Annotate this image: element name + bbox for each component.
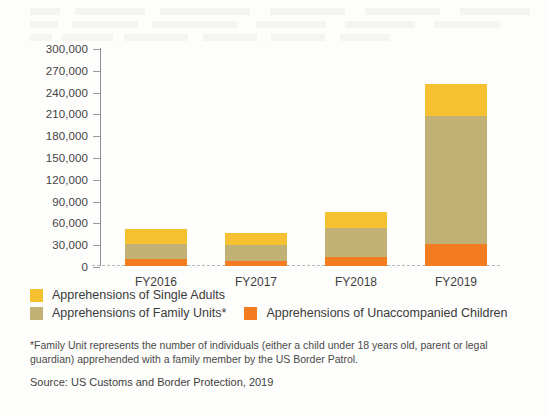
bar-segment-family bbox=[425, 116, 487, 244]
bleed-line bbox=[30, 8, 530, 15]
legend-label-single-adults: Apprehensions of Single Adults bbox=[52, 288, 225, 302]
y-axis-tick-mark bbox=[93, 202, 100, 203]
legend-swatch-unaccompanied-children-icon bbox=[244, 307, 257, 320]
y-axis-tick-label: 180,000 bbox=[46, 130, 100, 142]
y-axis-tick-label: 300,000 bbox=[46, 43, 100, 55]
bar-segment-children bbox=[325, 257, 387, 266]
plot-area: 300,000270,000240,000210,000180,000150,0… bbox=[100, 48, 500, 266]
bar-segment-adults bbox=[325, 212, 387, 228]
y-axis-tick-mark bbox=[93, 180, 100, 181]
bar-segment-adults bbox=[425, 84, 487, 117]
legend-item-unaccompanied-children: Apprehensions of Unaccompanied Children bbox=[244, 306, 507, 320]
y-axis-tick: 270,000 bbox=[100, 70, 500, 71]
bleed-line bbox=[30, 21, 500, 28]
x-axis-label-FY2016: FY2016 bbox=[101, 275, 211, 289]
legend-swatch-family-units-icon bbox=[30, 307, 43, 320]
legend-item-family-units: Apprehensions of Family Units* bbox=[30, 306, 226, 320]
bar-segment-family bbox=[125, 244, 187, 259]
bar-segment-children bbox=[125, 259, 187, 266]
legend-item-single-adults: Apprehensions of Single Adults bbox=[30, 288, 225, 302]
y-axis-tick-mark bbox=[93, 267, 100, 268]
legend-row: Apprehensions of Family Units* Apprehens… bbox=[30, 306, 540, 320]
bar-FY2019: FY2019 bbox=[425, 84, 487, 266]
chart-legend: Apprehensions of Single Adults Apprehens… bbox=[30, 288, 540, 324]
bar-FY2017: FY2017 bbox=[225, 233, 287, 266]
y-axis-tick-mark bbox=[93, 71, 100, 72]
bar-segment-family bbox=[325, 228, 387, 258]
bar-segment-adults bbox=[125, 229, 187, 244]
bar-segment-family bbox=[225, 245, 287, 261]
y-axis-tick-mark bbox=[93, 158, 100, 159]
legend-swatch-single-adults-icon bbox=[30, 289, 43, 302]
y-axis-tick-mark bbox=[93, 49, 100, 50]
bar-FY2018: FY2018 bbox=[325, 212, 387, 266]
y-axis-tick-mark bbox=[93, 223, 100, 224]
bar-segment-adults bbox=[225, 233, 287, 245]
y-axis-tick-mark bbox=[93, 114, 100, 115]
chart-notes: *Family Unit represents the number of in… bbox=[30, 338, 530, 388]
y-axis-tick-label: 270,000 bbox=[46, 65, 100, 77]
y-axis-tick-label: 150,000 bbox=[46, 152, 100, 164]
bar-segment-children bbox=[425, 244, 487, 266]
y-axis-tick-label: 240,000 bbox=[46, 87, 100, 99]
bar-chart: 300,000270,000240,000210,000180,000150,0… bbox=[0, 40, 550, 278]
x-axis-label-FY2019: FY2019 bbox=[401, 275, 511, 289]
source-credit: Source: US Customs and Border Protection… bbox=[30, 376, 530, 388]
legend-label-unaccompanied-children: Apprehensions of Unaccompanied Children bbox=[266, 306, 507, 320]
y-axis-tick-label: 210,000 bbox=[46, 108, 100, 120]
y-axis-tick-mark bbox=[93, 93, 100, 94]
y-axis-tick-label: 120,000 bbox=[46, 174, 100, 186]
y-axis-tick: 300,000 bbox=[100, 48, 500, 49]
bar-segment-children bbox=[225, 261, 287, 266]
x-axis-label-FY2017: FY2017 bbox=[201, 275, 311, 289]
x-axis-label-FY2018: FY2018 bbox=[301, 275, 411, 289]
background-bleed-through bbox=[30, 8, 530, 42]
bar-FY2016: FY2016 bbox=[125, 229, 187, 266]
legend-label-family-units: Apprehensions of Family Units* bbox=[52, 306, 226, 320]
y-axis-tick-mark bbox=[93, 136, 100, 137]
y-axis-tick-mark bbox=[93, 245, 100, 246]
y-axis-tick: 0 bbox=[100, 266, 500, 267]
legend-row: Apprehensions of Single Adults bbox=[30, 288, 540, 302]
footnote-family-unit: *Family Unit represents the number of in… bbox=[30, 338, 530, 366]
